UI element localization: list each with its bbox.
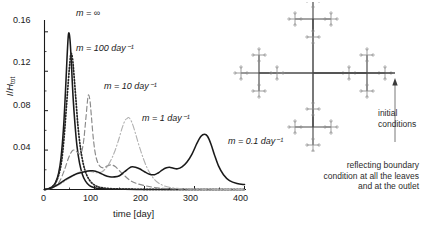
initial-conditions-line-2: conditions [378,119,416,130]
y-tick-label-3: 0.04 [13,143,31,152]
x-tick-label-4: 400 [233,194,248,203]
y-axis-label-denominator: H [4,84,15,91]
chart-curves [45,33,245,190]
breakthrough-curve-chart [0,0,260,227]
y-tick-label-0: 0.16 [13,16,31,25]
curve-label-m-1: m = 1 day⁻¹ [142,114,190,123]
boundary-condition-line-2: condition at all the leaves [236,171,419,182]
curve-label-m-infinity: m = ∞ [76,9,100,18]
initial-conditions-line-1: initial [378,108,416,119]
initial-conditions-label: initial conditions [378,108,416,129]
y-axis-label-subscript: tot [9,77,16,84]
curve-1 [45,33,245,190]
y-axis-label-numerator: I [4,94,15,97]
curve-label-m-10: m = 10 day⁻¹ [104,82,157,91]
y-axis-label: I/Htot [4,63,17,109]
fractal-network-diagram [232,2,417,152]
tree-branches [233,2,395,152]
x-tick-label-2: 200 [133,194,148,203]
boundary-condition-line-3: and at the outlet [236,181,419,192]
x-tick-label-3: 300 [183,194,198,203]
figure-root: 0.16 0.12 0.08 0.04 I/Htot 0 100 200 300… [0,0,423,227]
boundary-condition-line-1: reflecting boundary [236,160,419,171]
x-axis-label: time [day] [113,209,154,219]
y-axis-label-slash: / [4,91,15,94]
boundary-condition-label: reflecting boundary condition at all the… [236,160,419,192]
x-tick-label-1: 100 [83,194,98,203]
curve-label-m-100: m = 100 day⁻¹ [76,44,134,53]
x-tick-label-0: 0 [41,194,46,203]
